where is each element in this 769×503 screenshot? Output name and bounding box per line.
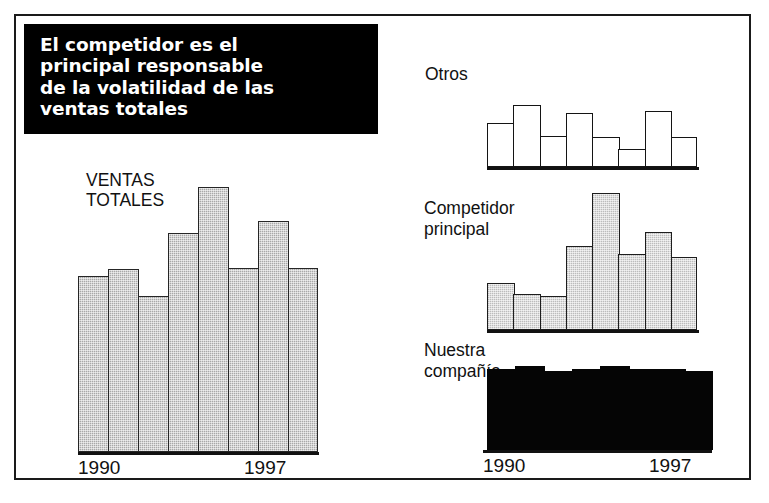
bar-otros-1996 [645, 111, 673, 167]
bar-ventas-totales-1990 [78, 276, 109, 452]
chart-competidor-principal [487, 188, 697, 333]
bar-nuestra-compania-1992 [544, 371, 574, 450]
chart-ventas-totales-axis [78, 452, 319, 455]
chart-otros-label: Otros [425, 64, 468, 85]
bar-competidor-principal-1993 [566, 246, 594, 330]
chart-ventas-totales-tick-start: 1990 [78, 457, 120, 479]
bar-competidor-principal-1992 [540, 296, 568, 330]
chart-ventas-totales: VENTAS TOTALES 1990 1997 [78, 170, 318, 455]
chart-otros-axis [487, 167, 699, 170]
bar-ventas-totales-1996 [258, 221, 289, 452]
bar-otros-1992 [540, 136, 568, 167]
chart-nuestra-axis [483, 450, 712, 453]
bar-ventas-totales-1993 [168, 233, 199, 452]
chart-competidor-axis [487, 330, 699, 333]
chart-nuestra-compania: 1990 1997 [487, 362, 713, 452]
bar-nuestra-compania-1995 [628, 369, 658, 450]
bar-ventas-totales-1992 [138, 296, 169, 452]
bar-nuestra-compania-1993 [572, 369, 602, 450]
bar-competidor-principal-1994 [592, 193, 620, 330]
bar-ventas-totales-1991 [108, 269, 139, 452]
callout-text: El competidor es el principal responsabl… [40, 34, 364, 120]
bar-otros-1994 [592, 137, 620, 167]
chart-nuestra-tick-end: 1997 [649, 455, 691, 477]
bar-otros-1997 [671, 137, 697, 167]
chart-nuestra-plot [487, 362, 713, 450]
bar-competidor-principal-1995 [618, 254, 646, 330]
bar-ventas-totales-1997 [288, 268, 318, 452]
chart-nuestra-tick-start: 1990 [483, 455, 525, 477]
bar-competidor-principal-1991 [513, 294, 541, 330]
chart-competidor-plot [487, 188, 697, 330]
bar-ventas-totales-1995 [228, 268, 259, 452]
bar-ventas-totales-1994 [198, 187, 229, 452]
callout-box: El competidor es el principal responsabl… [24, 24, 378, 134]
bar-nuestra-compania-1997 [685, 371, 713, 450]
chart-ventas-totales-plot [78, 187, 318, 452]
chart-otros [487, 95, 697, 170]
bar-nuestra-compania-1990 [487, 369, 517, 450]
bar-otros-1991 [513, 105, 541, 167]
bar-nuestra-compania-1994 [600, 366, 630, 450]
bar-competidor-principal-1990 [487, 283, 515, 330]
figure-canvas: El competidor es el principal responsabl… [0, 0, 769, 503]
bar-otros-1993 [566, 113, 594, 167]
bar-nuestra-compania-1991 [515, 366, 545, 450]
bar-competidor-principal-1996 [645, 232, 673, 330]
bar-otros-1990 [487, 123, 515, 167]
bar-otros-1995 [618, 149, 646, 167]
chart-ventas-totales-tick-end: 1997 [244, 457, 286, 479]
bar-nuestra-compania-1996 [657, 369, 687, 450]
bar-competidor-principal-1997 [671, 257, 697, 330]
chart-otros-plot [487, 95, 697, 167]
